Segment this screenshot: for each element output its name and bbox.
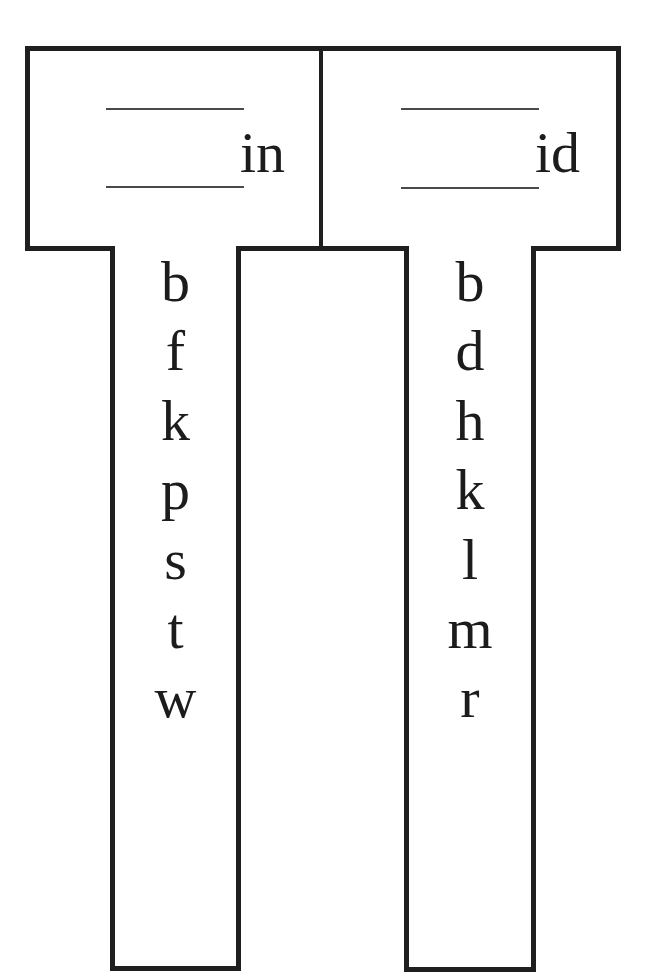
onset-letter: r	[409, 663, 531, 732]
onset-letter: b	[115, 247, 236, 316]
word-family-header	[25, 46, 621, 251]
onset-letter: f	[115, 316, 236, 385]
blank-line-bottom	[106, 186, 244, 188]
onset-letter: t	[115, 594, 236, 663]
onset-letter: k	[115, 386, 236, 455]
onset-letter: b	[409, 247, 531, 316]
onset-letter: h	[409, 386, 531, 455]
onset-letter: w	[115, 663, 236, 732]
onset-letter: l	[409, 525, 531, 594]
onset-letter: p	[115, 455, 236, 524]
letter-column-in: b f k p s t w	[110, 246, 241, 971]
onset-letter: m	[409, 594, 531, 663]
blank-line-top	[106, 108, 244, 110]
header-divider	[319, 46, 323, 251]
blank-line-top	[401, 108, 539, 110]
onset-letter: s	[115, 525, 236, 594]
word-ending-label: id	[535, 124, 580, 182]
letter-list: b d h k l m r	[409, 247, 531, 733]
blank-line-bottom	[401, 187, 539, 189]
word-ending-label: in	[240, 124, 285, 182]
letter-column-id: b d h k l m r	[404, 246, 536, 972]
onset-letter: k	[409, 455, 531, 524]
onset-letter: d	[409, 316, 531, 385]
letter-list: b f k p s t w	[115, 247, 236, 733]
